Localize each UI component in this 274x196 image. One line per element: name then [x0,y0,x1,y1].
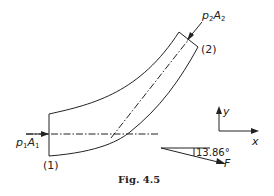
outer-wall [49,47,198,156]
y-axis-label: y [223,106,230,117]
outlet-section-label: (2) [201,44,217,55]
inlet-section-label: (1) [43,160,59,171]
outlet-force-label: p2A2 [202,10,225,23]
inlet-force-label: p1A1 [16,137,39,150]
pipe-bend-figure: p2A2 (2) p1A1 (1) y x 13.86° F Fig. 4.5 [0,0,274,196]
pipe-bend-drawing [0,0,274,196]
x-axis-label: x [252,136,259,147]
y-arrowhead-icon [216,106,222,114]
inlet-arrowhead-icon [41,131,49,137]
figure-caption: Fig. 4.5 [118,174,160,185]
inner-wall [49,32,179,114]
x-arrowhead-icon [251,128,259,134]
resultant-force-label: F [224,158,230,169]
